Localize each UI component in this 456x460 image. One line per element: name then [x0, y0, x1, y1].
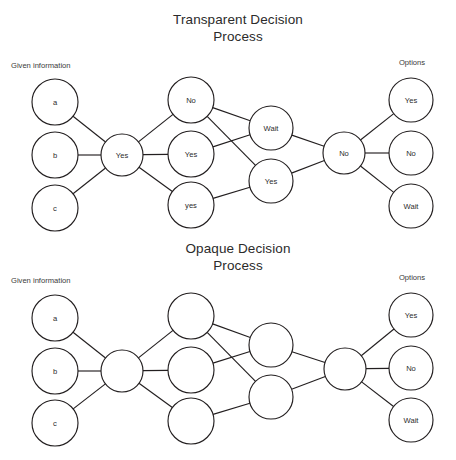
edge-t-mid2-2-to-t-hub2	[292, 161, 325, 174]
node-label-t-mid-2: Yes	[185, 150, 198, 159]
node-label-o-in-c: c	[53, 419, 57, 428]
edge-o-in-a-to-o-hub1	[73, 332, 105, 358]
edge-t-in-c-to-t-hub1	[73, 168, 105, 194]
edge-o-hub2-to-o-out-1	[361, 329, 394, 356]
edge-o-hub2-to-o-out-3	[362, 382, 394, 407]
decision-process-figure: abcYesNoYesyesWaitYesNoYesNoWaitTranspar…	[0, 0, 456, 460]
edge-t-in-a-to-t-hub1	[73, 116, 105, 142]
column-label-given-information-transparent: Given information	[11, 61, 71, 70]
node-label-o-in-b: b	[53, 367, 57, 376]
node-label-o-out-1: Yes	[405, 311, 418, 320]
edge-t-mid-2-to-t-mid2-1	[213, 135, 250, 147]
edge-t-hub2-to-t-out-1	[360, 114, 393, 140]
node-label-t-in-c: c	[53, 204, 57, 213]
diagram-title-transparent-line2: Process	[213, 29, 263, 44]
node-label-o-out-2: No	[406, 364, 416, 373]
edge-t-hub1-to-t-mid-3	[139, 167, 172, 191]
edge-t-hub1-to-t-mid-1	[138, 114, 173, 142]
diagram-title-transparent-line1: Transparent Decision	[173, 12, 303, 27]
node-o-hub1[interactable]	[101, 350, 143, 392]
node-o-mid-1[interactable]	[168, 293, 214, 339]
edge-t-hub2-to-t-out-3	[360, 166, 393, 192]
node-label-t-mid-1: No	[186, 96, 196, 105]
node-label-t-hub1: Yes	[116, 151, 129, 160]
diagram-title-opaque-line2: Process	[213, 258, 263, 273]
edge-o-mid-3-to-o-mid2-2	[213, 403, 250, 414]
node-label-t-in-b: b	[53, 151, 57, 160]
node-o-mid-3[interactable]	[168, 398, 214, 444]
edge-o-mid2-1-to-o-hub2	[292, 352, 325, 363]
edge-o-hub1-to-o-mid-3	[139, 383, 172, 407]
node-label-t-mid-3: yes	[185, 201, 197, 210]
edge-o-mid-2-to-o-mid2-1	[213, 352, 250, 364]
node-label-t-mid2-1: Wait	[264, 124, 280, 133]
node-label-t-out-1: Yes	[405, 96, 418, 105]
node-label-o-out-3: Wait	[404, 416, 420, 425]
diagram-title-opaque-line1: Opaque Decision	[185, 241, 290, 256]
node-label-t-out-3: Wait	[404, 202, 420, 211]
diagram-canvas: abcYesNoYesyesWaitYesNoYesNoWaitTranspar…	[0, 0, 456, 460]
node-o-mid2-1[interactable]	[249, 323, 293, 367]
edge-t-mid-3-to-t-mid2-2	[213, 187, 250, 198]
node-label-t-hub2: No	[339, 149, 349, 158]
column-label-given-information-opaque: Given information	[11, 276, 71, 285]
node-o-mid-2[interactable]	[168, 347, 214, 393]
node-o-mid2-2[interactable]	[249, 375, 293, 419]
edge-o-in-c-to-o-hub1	[73, 384, 105, 409]
edge-t-mid2-1-to-t-hub2	[292, 135, 324, 146]
edge-t-mid-1-to-t-mid2-1	[213, 108, 251, 121]
edge-o-mid2-2-to-o-hub2	[292, 376, 326, 389]
edge-o-mid-1-to-o-mid2-1	[213, 324, 251, 338]
node-label-t-mid2-2: Yes	[265, 177, 278, 186]
node-label-t-out-2: No	[406, 149, 416, 158]
column-label-options-transparent: Options	[399, 58, 425, 67]
node-o-hub2[interactable]	[324, 348, 366, 390]
column-label-options-opaque: Options	[399, 273, 425, 282]
edge-o-hub1-to-o-mid-1	[138, 330, 173, 358]
